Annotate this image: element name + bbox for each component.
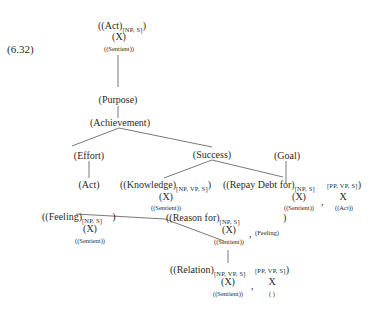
node-repay-role: ((Sentient)) — [284, 203, 314, 213]
node-relation-x2: X — [268, 277, 275, 287]
node-relation-label: ((Relation) — [170, 264, 214, 275]
node-feeling-label: ((Feeling) — [42, 211, 82, 222]
node-reason-close: ) — [283, 213, 286, 223]
node-feeling-x: (X) — [83, 224, 97, 234]
example-number: (6.32) — [7, 44, 34, 54]
node-root-role: ((Sentient)) — [104, 44, 134, 54]
node-relation-second-arg: [PP, VP, S]) — [255, 265, 289, 276]
node-repay-role2: ((Act)) — [335, 203, 353, 213]
node-knowledge-x: (X) — [159, 192, 173, 202]
node-knowledge-close: ) — [208, 179, 211, 190]
node-reason-role: ((Sentient)) — [214, 237, 244, 247]
node-relation-role2: ( ) — [269, 289, 275, 299]
node-knowledge-features: [NP, VP, S] — [176, 185, 208, 192]
edge-success-knowledge — [164, 160, 212, 178]
node-reason-comma: , — [249, 229, 252, 239]
edge-achievement-effort — [72, 128, 119, 146]
node-feeling-close: ) — [112, 211, 115, 222]
node-root-close: ) — [143, 20, 146, 31]
node-repay-comma: , — [321, 197, 324, 207]
node-repay: ((Repay Debt for)[NP, S] — [223, 180, 315, 191]
node-repay-x: (X) — [292, 192, 306, 202]
node-reason: ((Reason for)[NP, S] — [166, 213, 240, 224]
node-knowledge-label: ((Knowledge) — [120, 179, 176, 190]
node-knowledge: ((Knowledge)[NP, VP, S]) — [120, 180, 211, 191]
node-goal: (Goal) — [274, 151, 300, 161]
node-relation: ((Relation)[NP, VP, S] — [170, 265, 246, 276]
node-purpose: (Purpose) — [99, 95, 138, 105]
node-feeling-role: ((Sentient)) — [75, 236, 105, 246]
node-success: (Success) — [193, 150, 231, 160]
node-relation-close: ) — [286, 264, 289, 275]
node-reason-extra: (Feeling) — [255, 228, 279, 238]
edge-achievement-success — [119, 128, 212, 147]
node-repay-features-2: [PP, VP, S] — [327, 182, 358, 189]
node-repay-x2: X — [339, 192, 346, 202]
node-reason-label: ((Reason for) — [166, 212, 220, 223]
node-relation-role: ((Sentient)) — [213, 289, 243, 299]
node-root-x: (X) — [112, 32, 126, 42]
node-relation-comma: , — [251, 281, 254, 291]
node-relation-x: (X) — [221, 277, 235, 287]
node-act: (Act) — [78, 180, 99, 190]
node-repay-second-arg: [PP, VP, S]) — [327, 180, 361, 191]
node-feeling: ((Feeling)[NP, S]) — [42, 212, 116, 223]
node-reason-x: (X) — [222, 225, 236, 235]
node-achievement: (Achievement) — [90, 118, 150, 128]
node-repay-label: ((Repay Debt for) — [223, 179, 295, 190]
node-effort: (Effort) — [74, 151, 104, 161]
node-root-label: ((Act) — [98, 20, 122, 31]
edge-success-goal — [212, 160, 283, 177]
node-repay-close: ) — [358, 179, 361, 190]
node-relation-features-2: [PP, VP, S] — [255, 267, 286, 274]
tree-edges — [0, 0, 383, 309]
